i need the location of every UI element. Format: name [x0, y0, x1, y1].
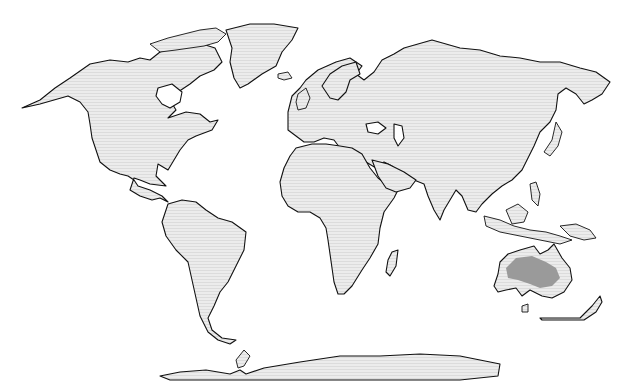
world-map — [0, 0, 638, 382]
